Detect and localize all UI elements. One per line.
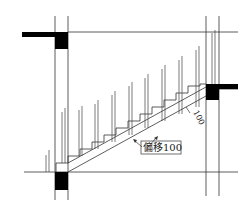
- railing-balusters: [46, 30, 215, 172]
- offset-label: 偏移100: [143, 141, 182, 153]
- dimension-label: 100: [191, 109, 206, 127]
- stair-drawing: 偏移100 100: [0, 0, 252, 211]
- stair-stringer: [56, 84, 206, 172]
